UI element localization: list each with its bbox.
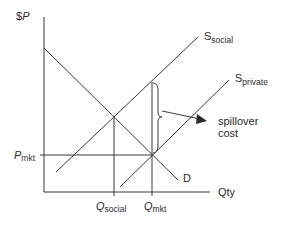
demand-label: D: [183, 172, 191, 184]
q-mkt-label: Qmkt: [144, 200, 167, 214]
y-axis-label: $P: [16, 10, 30, 22]
p-mkt-label: Pmkt: [14, 149, 36, 163]
s-private-label: Sprivate: [235, 72, 268, 87]
spillover-label-line2: cost: [218, 127, 238, 139]
spillover-arrow-line: [162, 111, 200, 119]
spillover-label-line1: spillover: [218, 115, 259, 127]
q-social-label: Qsocial: [96, 200, 126, 214]
s-social-label: Ssocial: [204, 30, 233, 45]
externality-diagram: $P Qty D Ssocial Sprivate Pmkt Qsocial Q…: [0, 0, 281, 231]
s-social-curve: [56, 37, 198, 172]
arrow-head-icon: [196, 114, 207, 124]
spillover-brace: [153, 83, 162, 153]
x-axis-label: Qty: [218, 186, 236, 198]
